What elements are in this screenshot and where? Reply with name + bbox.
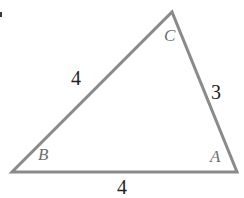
side-length-label-bc: 4 (71, 68, 81, 88)
edge-speck-artifact (0, 12, 2, 17)
side-length-label-ac: 3 (211, 82, 221, 102)
vertex-label-a: A (210, 148, 220, 165)
vertex-label-c: C (164, 27, 175, 44)
side-length-label-ab: 4 (117, 177, 127, 197)
vertex-label-b: B (38, 146, 48, 163)
triangle-figure: C B A 4 3 4 (0, 0, 244, 198)
triangle-shape (0, 0, 244, 198)
